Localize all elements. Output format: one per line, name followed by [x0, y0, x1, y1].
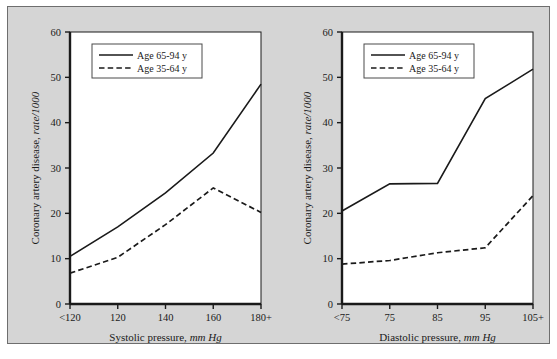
- figure-root: 0102030405060<120120140160180+Systolic p…: [0, 0, 557, 359]
- x-tick-label: 120: [110, 312, 126, 323]
- chart-left-svg: 0102030405060<120120140160180+Systolic p…: [7, 0, 279, 359]
- legend: Age 65-94 yAge 35-64 y: [92, 44, 202, 78]
- y-axis-title-italic: rate/1000: [301, 91, 313, 134]
- legend-label-2: Age 35-64 y: [409, 63, 459, 74]
- y-tick-label: 30: [51, 163, 62, 174]
- x-axis-title: Diastolic pressure, mm Hg: [379, 331, 496, 343]
- y-tick-label: 10: [323, 253, 334, 264]
- y-tick-label: 0: [328, 299, 333, 310]
- legend: Age 65-94 yAge 35-64 y: [364, 44, 474, 78]
- x-tick-label: 95: [480, 312, 491, 323]
- x-axis-title: Systolic pressure, mm Hg: [109, 331, 222, 343]
- x-axis-title-italic: mm Hg: [464, 331, 497, 343]
- left-plot-group: 0102030405060<120120140160180+Systolic p…: [29, 27, 272, 343]
- right-plot-group: 0102030405060<75758595105+Diastolic pres…: [301, 27, 544, 343]
- x-tick-label: <75: [334, 312, 350, 323]
- chart-right-svg: 0102030405060<75758595105+Diastolic pres…: [279, 0, 551, 359]
- y-tick-label: 50: [51, 72, 62, 83]
- y-axis-title: Coronary artery disease, rate/1000: [29, 91, 41, 244]
- legend-label-1: Age 65-94 y: [409, 50, 459, 61]
- y-axis-title-italic: rate/1000: [29, 91, 41, 134]
- y-axis-title-plain: Coronary artery disease,: [301, 134, 313, 244]
- legend-label-2: Age 35-64 y: [137, 63, 187, 74]
- x-tick-label: 140: [158, 312, 174, 323]
- x-axis-title-plain: Diastolic pressure,: [379, 331, 464, 343]
- y-tick-label: 40: [323, 117, 334, 128]
- y-tick-label: 10: [51, 253, 62, 264]
- y-tick-label: 30: [323, 163, 334, 174]
- x-axis-title-plain: Systolic pressure,: [109, 331, 189, 343]
- y-tick-label: 0: [56, 299, 61, 310]
- x-tick-label: 75: [385, 312, 396, 323]
- legend-label-1: Age 65-94 y: [137, 50, 187, 61]
- x-tick-label: 105+: [522, 312, 544, 323]
- x-tick-label: <120: [59, 312, 81, 323]
- y-tick-label: 20: [323, 208, 334, 219]
- y-axis-title: Coronary artery disease, rate/1000: [301, 91, 313, 244]
- chart-systolic-pressure: 0102030405060<120120140160180+Systolic p…: [7, 0, 279, 359]
- y-axis-title-plain: Coronary artery disease,: [29, 134, 41, 244]
- x-axis-title-italic: mm Hg: [190, 331, 223, 343]
- chart-diastolic-pressure: 0102030405060<75758595105+Diastolic pres…: [279, 0, 551, 359]
- y-tick-label: 40: [51, 117, 62, 128]
- x-tick-label: 85: [432, 312, 443, 323]
- x-tick-label: 180+: [250, 312, 272, 323]
- y-tick-label: 20: [51, 208, 62, 219]
- y-tick-label: 60: [323, 27, 334, 38]
- x-tick-label: 160: [205, 312, 221, 323]
- y-tick-label: 60: [51, 27, 62, 38]
- y-tick-label: 50: [323, 72, 334, 83]
